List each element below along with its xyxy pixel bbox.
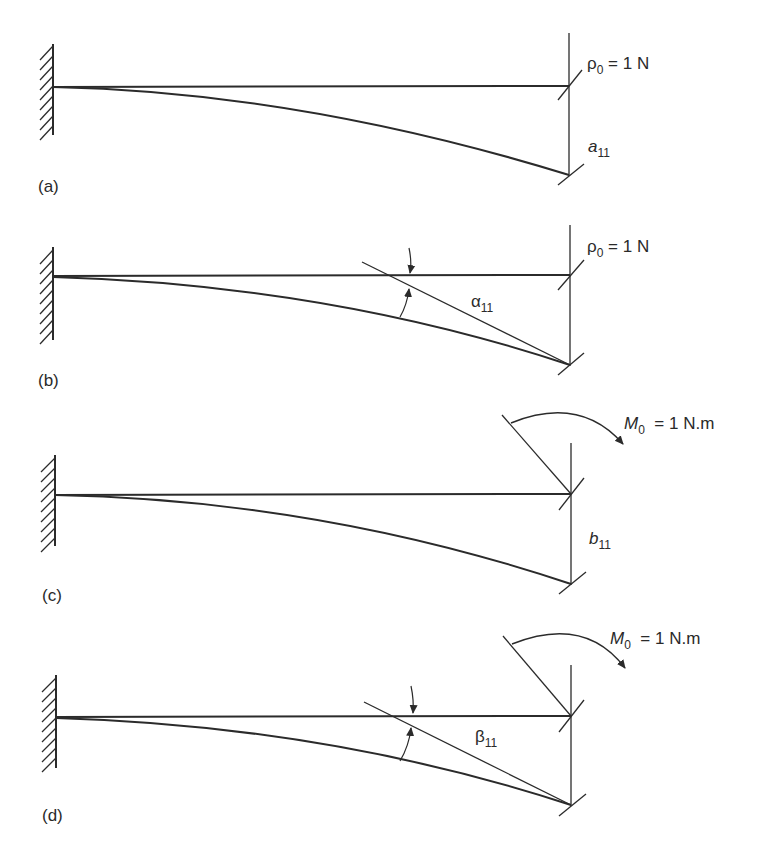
- load-tick: [558, 70, 582, 100]
- result-label-a: a11: [588, 138, 610, 159]
- panel-d: [42, 634, 625, 816]
- deflection-tick: [558, 164, 584, 185]
- load-subscript: 0: [638, 423, 645, 437]
- load-symbol: ρ: [587, 237, 597, 256]
- panel-a: [40, 33, 584, 185]
- deflection-tick: [559, 572, 586, 594]
- deflected-beam: [53, 277, 570, 365]
- result-subscript: 11: [485, 736, 497, 750]
- angle-arc-indicator: [400, 248, 411, 317]
- tangent-line: [362, 262, 570, 365]
- fixed-support-wall: [41, 455, 55, 552]
- result-subscript: 11: [598, 538, 610, 552]
- panel-label-b: (b): [38, 372, 59, 389]
- load-value: = 1 N: [603, 237, 649, 256]
- result-label-b: α11: [471, 293, 493, 314]
- load-label-b: ρ0 = 1 N: [587, 238, 649, 259]
- fixed-support-wall: [40, 44, 53, 140]
- result-symbol: α: [471, 292, 481, 311]
- load-symbol: M: [610, 629, 624, 648]
- moment-lever-line: [503, 636, 571, 716]
- load-label-a: ρ0 = 1 N: [587, 55, 649, 76]
- panel-c: [41, 413, 623, 594]
- result-label-c: b11: [589, 530, 611, 551]
- load-symbol: ρ: [587, 54, 597, 73]
- result-label-d: β11: [475, 728, 497, 749]
- result-subscript: 11: [597, 146, 609, 160]
- load-subscript: 0: [624, 638, 631, 652]
- panel-label-d: (d): [42, 807, 63, 824]
- load-label-d: M0 = 1 N.m: [610, 630, 700, 651]
- undeformed-beam: [56, 716, 571, 717]
- panel-label-a: (a): [38, 178, 59, 195]
- deflection-tick: [558, 353, 584, 375]
- moment-arrow-arc: [512, 634, 625, 668]
- tangent-line: [364, 702, 571, 805]
- panel-label-c: (c): [42, 587, 62, 604]
- fixed-support-wall: [40, 247, 53, 344]
- panel-b: [40, 225, 584, 375]
- deflected-beam: [53, 87, 569, 175]
- moment-arrow-arc: [511, 413, 623, 444]
- fixed-support-wall: [42, 675, 56, 772]
- undeformed-beam: [53, 275, 570, 276]
- result-symbol: β: [475, 727, 485, 746]
- deflected-beam: [55, 495, 571, 584]
- load-symbol: M: [624, 414, 638, 433]
- result-subscript: 11: [481, 301, 493, 315]
- deflection-tick: [559, 794, 586, 816]
- undeformed-beam: [55, 494, 571, 495]
- undeformed-beam: [53, 86, 569, 87]
- load-value: = 1 N: [603, 54, 649, 73]
- load-value: = 1 N.m: [631, 629, 700, 648]
- load-label-c: M0 = 1 N.m: [624, 415, 714, 436]
- moment-lever-line: [502, 415, 571, 494]
- load-value: = 1 N.m: [645, 414, 714, 433]
